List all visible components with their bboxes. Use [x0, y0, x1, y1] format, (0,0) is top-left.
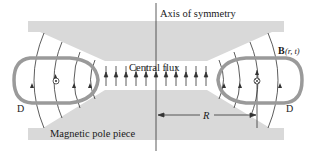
axis-label: Axis of symmetry [160, 8, 237, 19]
field-label-args: (r, t) [285, 46, 300, 56]
cross-into-page-icon [254, 78, 260, 84]
betatron-diagram: Axis of symmetry Central flux B (r, t) M… [0, 0, 316, 160]
d-label-right: D [286, 103, 293, 114]
field-arrows-right [222, 70, 282, 88]
central-flux-label: Central flux [129, 62, 180, 73]
dot-out-of-page-icon [53, 78, 59, 84]
field-label-b: B [278, 45, 285, 56]
d-label-left: D [17, 103, 24, 114]
radius-label: R [202, 110, 210, 121]
field-arrows-left [30, 74, 92, 88]
pole-piece-label: Magnetic pole piece [50, 128, 135, 139]
